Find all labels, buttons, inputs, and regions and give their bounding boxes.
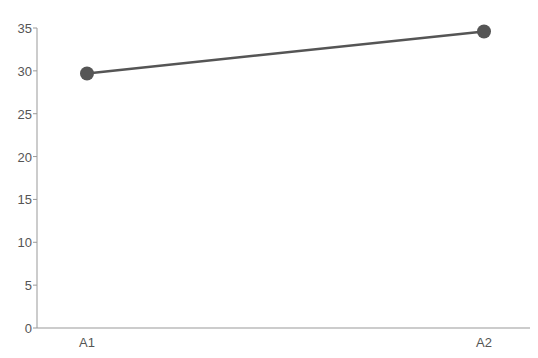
series-line [87,31,484,73]
y-ticks: 05101520253035 [18,21,37,336]
y-tick-label: 25 [18,107,32,122]
y-tick-label: 30 [18,64,32,79]
data-point-marker [80,66,94,80]
y-tick-label: 10 [18,235,32,250]
y-tick-label: 20 [18,150,32,165]
x-tick-label: A2 [476,335,492,350]
y-tick-label: 35 [18,21,32,36]
y-tick-label: 0 [25,321,32,336]
y-tick-label: 5 [25,278,32,293]
line-chart: 05101520253035 A1A2 [0,0,538,358]
x-tick-labels: A1A2 [79,335,492,350]
data-point-marker [477,24,491,38]
x-tick-label: A1 [79,335,95,350]
data-series [80,24,491,80]
y-tick-label: 15 [18,192,32,207]
